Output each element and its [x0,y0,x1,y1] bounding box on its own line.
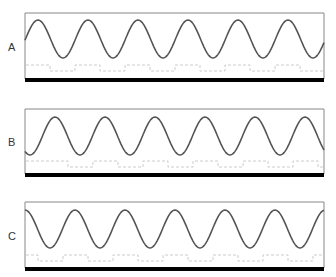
sine-wave [25,117,324,155]
baseline-bar [25,78,324,82]
step-signal-line [26,65,323,71]
panel-a [25,13,324,82]
sine-wave [25,20,324,58]
step-signal-line [26,255,323,261]
waveform-diagram [0,0,336,277]
panel-b [25,109,324,177]
sine-wave [25,210,324,248]
baseline-bar [25,173,324,177]
panel-c [25,202,324,271]
baseline-bar [25,267,324,271]
step-signal-line [26,161,323,167]
